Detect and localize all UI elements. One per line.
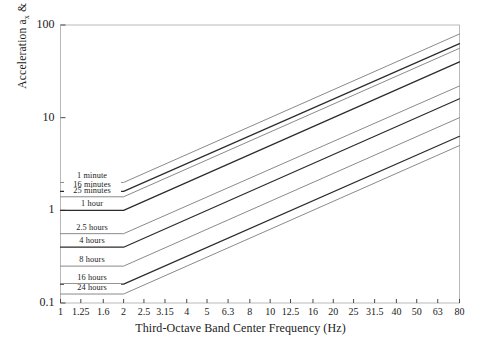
- y-axis-title: Acceleration ax & ay (ms−2) rms: [14, 0, 31, 92]
- series-label: 2.5 hours: [64, 224, 121, 232]
- y-axis-title-text: Acceleration ax & ay (ms−2) rms: [16, 0, 28, 89]
- series-label: 16 hours: [64, 274, 121, 282]
- series-label: 24 hours: [64, 284, 121, 292]
- chart-figure: Acceleration ax & ay (ms−2) rms Third-Oc…: [0, 0, 481, 342]
- series-label: 4 hours: [64, 237, 121, 245]
- series-line: [61, 34, 460, 182]
- series-label: 1 hour: [64, 200, 121, 208]
- x-tick-label: 80: [444, 306, 476, 317]
- series-label: 8 hours: [64, 256, 121, 264]
- x-axis-title: Third-Octave Band Center Frequency (Hz): [0, 321, 481, 336]
- series-lines: [61, 34, 460, 294]
- series-line: [61, 86, 460, 234]
- series-line: [61, 146, 460, 294]
- x-tick-marks: [61, 299, 460, 303]
- y-tick-label: 1: [13, 202, 55, 217]
- series-line: [61, 44, 460, 192]
- y-tick-label: 10: [13, 110, 55, 125]
- series-label: 25 minutes: [64, 187, 121, 195]
- y-tick-label: 100: [13, 17, 55, 32]
